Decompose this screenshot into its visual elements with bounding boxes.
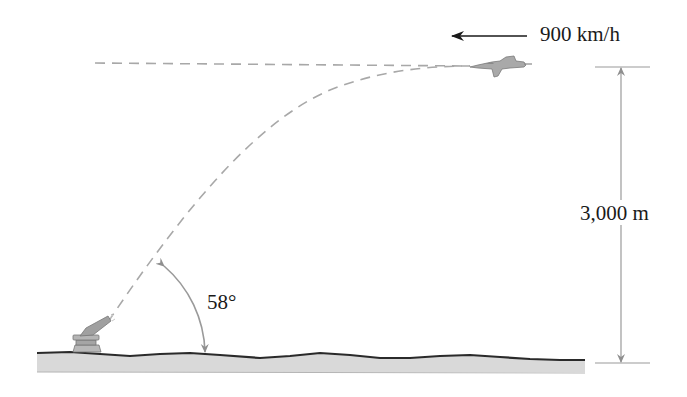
jet-icon bbox=[470, 56, 532, 77]
diagram-canvas bbox=[0, 0, 687, 397]
angle-label: 58° bbox=[207, 292, 236, 313]
height-label: 3,000 m bbox=[580, 203, 649, 224]
cannon-icon bbox=[73, 314, 115, 352]
ground bbox=[37, 352, 585, 373]
projectile-trajectory bbox=[108, 66, 470, 322]
speed-label: 900 km/h bbox=[540, 24, 620, 45]
altitude-dashed-line bbox=[95, 63, 470, 66]
angle-arc bbox=[164, 266, 205, 352]
